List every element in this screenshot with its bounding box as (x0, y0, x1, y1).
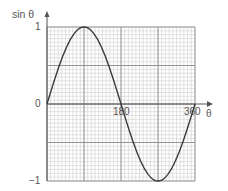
y-tick-minus-1: −1 (29, 176, 40, 186)
y-axis-label: sin θ (12, 9, 34, 20)
x-tick-360: 360 (184, 107, 201, 117)
x-axis-arrow-icon (207, 101, 213, 107)
y-tick-1: 1 (35, 22, 41, 32)
y-axis-arrow-icon (45, 11, 50, 17)
y-tick-0: 0 (35, 99, 41, 109)
x-tick-180: 180 (113, 107, 130, 117)
x-axis-label: θ (206, 109, 212, 119)
